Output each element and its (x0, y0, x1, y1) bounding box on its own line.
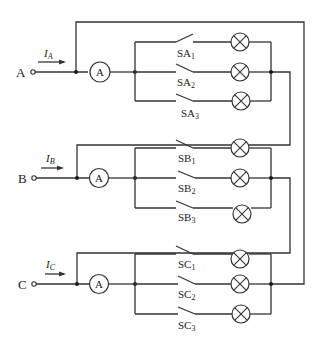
current-label-a: IA (43, 47, 53, 61)
terminal-label-b: B (18, 171, 27, 186)
ammeter-label: A (95, 278, 103, 290)
switch-sb2 (178, 171, 195, 178)
arrow-head-icon (57, 166, 64, 171)
terminal-b (32, 176, 36, 180)
switch-sa1 (176, 34, 193, 42)
switch-label-sc3: SC3 (178, 319, 195, 333)
lamp-cross-circle-icon (231, 63, 249, 81)
switch-label-sa2: SA2 (177, 76, 195, 90)
lamp-cross-circle-icon (233, 205, 251, 223)
phase-c-group: C IC A SC1 SC2 (18, 246, 273, 333)
switch-sa3 (176, 94, 193, 101)
junction-node (269, 176, 273, 180)
switch-sa2 (176, 64, 193, 72)
switch-sb1 (176, 140, 193, 148)
switch-label-sc2: SC2 (178, 288, 195, 302)
switch-sc2 (178, 276, 195, 284)
arrow-head-icon (59, 272, 66, 277)
lamp-cross-circle-icon (231, 33, 249, 51)
terminal-label-a: A (16, 65, 26, 80)
lamp-cross-circle-icon (231, 275, 249, 293)
switch-label-sc1: SC1 (178, 258, 195, 272)
junction-node (75, 176, 79, 180)
switch-sc3 (178, 307, 195, 314)
switch-label-sb2: SB2 (178, 182, 195, 196)
switch-label-sa3: SA3 (181, 107, 199, 121)
junction-node (74, 70, 78, 74)
terminal-label-c: C (18, 277, 27, 292)
phase-b-group: B IB A SB1 SB2 (18, 139, 273, 225)
switch-sb3 (176, 201, 193, 208)
ammeter-label: A (96, 66, 104, 78)
terminal-a (31, 70, 35, 74)
switch-label-sb3: SB3 (178, 211, 195, 225)
switch-label-sb1: SB1 (178, 152, 195, 166)
lamp-cross-circle-icon (231, 139, 249, 157)
arrow-head-icon (59, 60, 66, 65)
junction-node (269, 282, 273, 286)
junction-node (75, 282, 79, 286)
current-label-c: IC (45, 258, 56, 272)
lamp-cross-circle-icon (232, 92, 250, 110)
terminal-c (32, 282, 36, 286)
current-label-b: IB (45, 152, 55, 166)
lamp-cross-circle-icon (232, 305, 250, 323)
switch-label-sa1: SA1 (177, 47, 195, 61)
phase-a-group: A IA A SA1 SA2 (16, 33, 273, 121)
lamp-cross-circle-icon (231, 169, 249, 187)
lamp-cross-circle-icon (231, 250, 249, 268)
circuit-diagram: A IA A SA1 SA2 (0, 0, 322, 353)
junction-node (269, 70, 273, 74)
ammeter-label: A (95, 172, 103, 184)
